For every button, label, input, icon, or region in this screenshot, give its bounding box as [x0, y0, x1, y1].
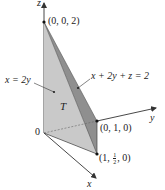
z-axis-label: z — [37, 0, 41, 8]
tetrahedron-diagram — [0, 0, 165, 190]
apex-point — [42, 20, 45, 23]
corner-label-prefix: (1, — [99, 152, 112, 163]
origin-label: 0 — [35, 127, 40, 137]
y-axis — [97, 108, 156, 121]
right-plane-label: x + 2y + z = 2 — [91, 71, 149, 81]
leader-dot-right — [77, 87, 79, 89]
leader-dot-left — [53, 91, 55, 93]
x-axis-label: x — [87, 179, 91, 189]
y-axis-label: y — [150, 113, 154, 123]
corner-label: (1, 12, 0) — [99, 152, 131, 165]
y-intercept-point — [95, 119, 98, 122]
fraction-numerator: 1 — [113, 152, 116, 159]
leader-plane — [78, 79, 90, 88]
region-label-T: T — [60, 101, 66, 112]
fraction-denominator: 2 — [113, 159, 116, 165]
apex-label: (0, 0, 2) — [48, 16, 80, 26]
corner-label-suffix: , 0) — [117, 152, 130, 163]
left-plane-label: x = 2y — [5, 75, 31, 85]
y-intercept-label: (0, 1, 0) — [100, 123, 132, 133]
fraction-one-half: 12 — [113, 152, 116, 165]
